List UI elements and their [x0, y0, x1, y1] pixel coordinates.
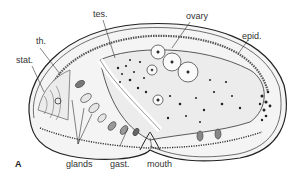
label-gastric: gast.: [110, 160, 130, 169]
anatomical-diagram: tes. ovary epid. th. stat. glands gast. …: [0, 0, 292, 177]
label-glands: glands: [66, 160, 93, 169]
label-ovary: ovary: [186, 12, 208, 21]
label-testis: tes.: [93, 10, 108, 19]
organism-drawing: [0, 0, 292, 177]
label-epidermis: epid.: [242, 32, 262, 41]
label-mouth: mouth: [147, 160, 172, 169]
label-statocyst: stat.: [16, 56, 33, 65]
panel-letter: A: [15, 160, 22, 169]
label-th: th.: [36, 37, 46, 46]
